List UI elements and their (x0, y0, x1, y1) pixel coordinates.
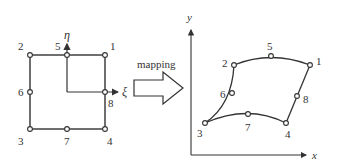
svg-text:6: 6 (18, 86, 24, 98)
svg-text:4: 4 (107, 135, 113, 147)
y-axis-label: y (186, 11, 192, 23)
svg-text:7: 7 (245, 121, 251, 133)
node-3: 3 (18, 127, 32, 147)
mapped-element: y x 1 2 3 4 5 6 7 8 (186, 11, 322, 161)
svg-text:5: 5 (267, 40, 273, 52)
svg-text:3: 3 (18, 135, 24, 147)
mapping-label: mapping (137, 58, 176, 70)
x-axis-label: x (311, 149, 317, 161)
svg-text:2: 2 (18, 40, 24, 52)
svg-text:5: 5 (55, 40, 61, 52)
node-4: 4 (103, 127, 113, 147)
mapped-node-1: 1 (308, 55, 322, 67)
svg-text:1: 1 (316, 55, 322, 67)
node-1: 1 (103, 40, 116, 57)
mapped-node-3: 3 (197, 121, 207, 139)
hollow-arrow-icon (134, 72, 183, 104)
svg-text:6: 6 (220, 88, 226, 100)
parent-element: η ξ 1 2 3 4 5 6 7 8 (18, 28, 128, 147)
mapped-node-4: 4 (284, 121, 291, 140)
mapped-node-8: 8 (295, 93, 309, 105)
mapped-node-5: 5 (267, 40, 273, 58)
mapped-node-7: 7 (245, 112, 251, 133)
svg-text:3: 3 (197, 127, 203, 139)
svg-text:8: 8 (108, 97, 114, 109)
mapped-node-6: 6 (220, 88, 234, 100)
node-2: 2 (18, 40, 32, 57)
eta-label: η (64, 28, 70, 42)
svg-text:8: 8 (303, 93, 309, 105)
svg-text:1: 1 (110, 40, 116, 52)
svg-text:4: 4 (285, 128, 291, 140)
xi-label: ξ (122, 85, 128, 99)
svg-text:2: 2 (222, 57, 228, 69)
svg-text:7: 7 (64, 135, 70, 147)
mapping-arrow: mapping (134, 58, 183, 104)
node-7: 7 (64, 127, 70, 147)
diagram-canvas: η ξ 1 2 3 4 5 6 7 8 mapping y x 1 2 3 4 … (0, 0, 337, 167)
mapped-node-2: 2 (222, 57, 236, 69)
